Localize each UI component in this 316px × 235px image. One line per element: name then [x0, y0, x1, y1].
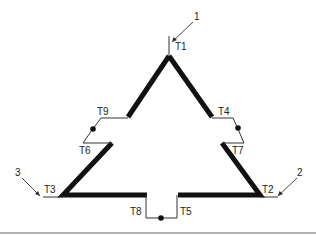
leader-arrow-3	[22, 178, 40, 196]
junction-dot-bottom	[158, 215, 164, 221]
leader-arrow-1	[172, 22, 193, 42]
winding-left-upper	[128, 56, 169, 117]
junction-dot-left	[90, 126, 96, 132]
junction-dot-right	[235, 125, 241, 131]
winding-right-upper	[169, 56, 212, 117]
delta-winding-diagram: 1 2 3 T1 T2 T3 T4 T5 T6 T7 T8 T9	[0, 0, 316, 235]
terminal-label-t7: T7	[232, 145, 244, 156]
terminal-label-t3: T3	[44, 184, 56, 195]
lead-label-1: 1	[194, 11, 200, 22]
terminal-label-t9: T9	[97, 106, 109, 117]
terminal-label-t1: T1	[175, 41, 187, 52]
winding-right-lower	[178, 143, 260, 195]
leader-arrow-2	[278, 178, 297, 196]
terminal-label-t4: T4	[218, 106, 230, 117]
t8-t5-link	[146, 195, 177, 218]
terminal-label-t6: T6	[79, 145, 91, 156]
terminal-label-t2: T2	[262, 184, 274, 195]
winding-left-lower	[63, 143, 147, 195]
lead-label-2: 2	[297, 167, 303, 178]
terminal-label-t5: T5	[180, 206, 192, 217]
terminal-label-t8: T8	[130, 206, 142, 217]
lead-label-3: 3	[15, 167, 21, 178]
t9-t6-link	[83, 118, 128, 143]
